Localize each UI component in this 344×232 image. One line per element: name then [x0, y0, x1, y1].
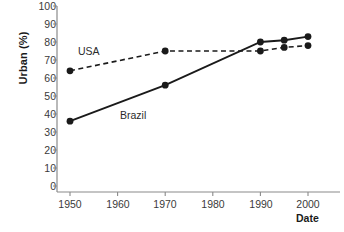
axis-lines: [57, 6, 340, 192]
series-markers: [67, 33, 312, 124]
plot-area: [0, 0, 344, 232]
data-point-brazil-1990: [257, 39, 264, 46]
data-point-usa-1970: [162, 48, 169, 55]
data-point-brazil-2000: [305, 33, 312, 40]
urban-population-line-chart: Urban (%) Date 100 90 80 70 60 50 40 30 …: [0, 0, 344, 232]
data-point-brazil-1995: [281, 37, 288, 44]
data-point-usa-1990: [257, 48, 264, 55]
series-lines: [70, 37, 308, 122]
data-point-usa-1995: [281, 44, 288, 51]
series-line-usa: [70, 46, 308, 71]
x-axis-ticks: [70, 192, 308, 196]
data-point-brazil-1950: [67, 118, 74, 125]
data-point-usa-1950: [67, 67, 74, 74]
cropped-caption-strip: [150, 226, 300, 232]
data-point-usa-2000: [305, 42, 312, 49]
data-point-brazil-1970: [162, 82, 169, 89]
